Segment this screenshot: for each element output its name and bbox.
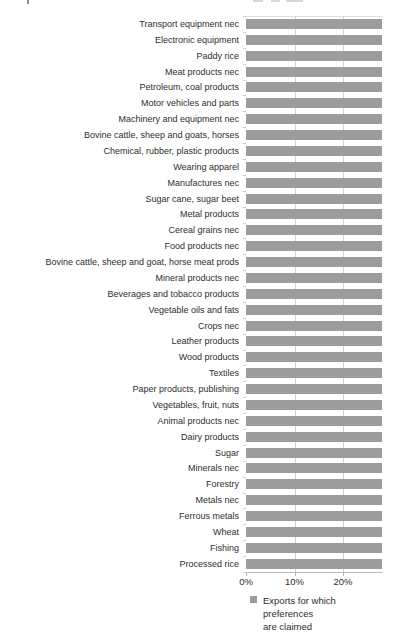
category-label: Machinery and equipment nec (0, 114, 246, 124)
bar (246, 241, 382, 251)
bar-row: Meat products nec (0, 64, 396, 80)
category-label: Dairy products (0, 432, 246, 442)
category-label: Electronic equipment (0, 35, 246, 45)
category-label: Ferrous metals (0, 511, 246, 521)
bar-row: Vegetables, fruit, nuts (0, 397, 396, 413)
bar (246, 479, 382, 489)
bar-row: Transport equipment nec (0, 16, 396, 32)
bar-row: Vegetable oils and fats (0, 302, 396, 318)
bar-rows: Transport equipment necElectronic equipm… (0, 16, 396, 572)
cropped-text-artifact (27, 0, 29, 4)
bar (246, 35, 382, 45)
bar-row: Textiles (0, 365, 396, 381)
category-label: Mineral products nec (0, 273, 246, 283)
bar-row: Ferrous metals (0, 508, 396, 524)
bar (246, 336, 382, 346)
category-label: Beverages and tobacco products (0, 289, 246, 299)
bar (246, 19, 382, 29)
bar-row: Crops nec (0, 318, 396, 334)
category-label: Textiles (0, 368, 246, 378)
category-label: Vegetable oils and fats (0, 305, 246, 315)
bar-row: Metal products (0, 207, 396, 223)
category-label: Leather products (0, 336, 246, 346)
bar (246, 146, 382, 156)
category-label: Metals nec (0, 495, 246, 505)
bar (246, 305, 382, 315)
bar-row: Animal products nec (0, 413, 396, 429)
category-label: Metal products (0, 209, 246, 219)
bar-row: Bovine cattle, sheep and goats, horses (0, 127, 396, 143)
bar-row: Processed rice (0, 556, 396, 572)
bar (246, 400, 382, 410)
category-label: Chemical, rubber, plastic products (0, 146, 246, 156)
x-tick-label: 10% (277, 576, 313, 587)
bar (246, 130, 382, 140)
category-label: Wheat (0, 527, 246, 537)
cropped-text-artifact (271, 0, 280, 2)
category-label: Minerals nec (0, 463, 246, 473)
bar (246, 527, 382, 537)
x-tick-label: 20% (325, 576, 361, 587)
bar-row: Manufactures nec (0, 175, 396, 191)
bar-row: Dairy products (0, 429, 396, 445)
bar-row: Fishing (0, 540, 396, 556)
bar (246, 559, 382, 569)
bar (246, 321, 382, 331)
bar-row: Mineral products nec (0, 270, 396, 286)
category-label: Wearing apparel (0, 162, 246, 172)
category-label: Crops nec (0, 321, 246, 331)
bar-chart-figure: Transport equipment necElectronic equipm… (0, 0, 396, 639)
category-label: Petroleum, coal products (0, 82, 246, 92)
bar (246, 162, 382, 172)
category-label: Paper products, publishing (0, 384, 246, 394)
category-label: Motor vehicles and parts (0, 98, 246, 108)
category-label: Forestry (0, 479, 246, 489)
x-axis-line (246, 572, 383, 573)
category-label: Manufactures nec (0, 178, 246, 188)
category-label: Sugar cane, sugar beet (0, 194, 246, 204)
bar (246, 51, 382, 61)
category-label: Cereal grains nec (0, 225, 246, 235)
bar (246, 114, 382, 124)
bar-row: Bovine cattle, sheep and goat, horse mea… (0, 254, 396, 270)
bar (246, 368, 382, 378)
category-label: Paddy rice (0, 51, 246, 61)
bar-row: Metals nec (0, 492, 396, 508)
legend-swatch (250, 596, 257, 603)
bar-row: Cereal grains nec (0, 222, 396, 238)
legend-label: Exports for which preferences are claime… (263, 594, 336, 633)
bar (246, 448, 382, 458)
bar-row: Machinery and equipment nec (0, 111, 396, 127)
bar (246, 384, 382, 394)
legend-label-line: Exports for which (263, 594, 336, 607)
bar-row: Forestry (0, 476, 396, 492)
bar-row: Wood products (0, 349, 396, 365)
bar-row: Petroleum, coal products (0, 80, 396, 96)
category-label: Sugar (0, 448, 246, 458)
bar-row: Beverages and tobacco products (0, 286, 396, 302)
x-tick-label: 0% (228, 576, 264, 587)
bar (246, 432, 382, 442)
bar-row: Wearing apparel (0, 159, 396, 175)
bar-row: Paddy rice (0, 48, 396, 64)
bar-row: Electronic equipment (0, 32, 396, 48)
cropped-text-artifact (253, 0, 263, 2)
bar-row: Leather products (0, 334, 396, 350)
category-label: Vegetables, fruit, nuts (0, 400, 246, 410)
category-label: Fishing (0, 543, 246, 553)
category-label: Transport equipment nec (0, 19, 246, 29)
bar (246, 194, 382, 204)
bar (246, 209, 382, 219)
bar (246, 543, 382, 553)
bar (246, 463, 382, 473)
bar (246, 178, 382, 188)
bar (246, 82, 382, 92)
bar-row: Wheat (0, 524, 396, 540)
bar-row: Motor vehicles and parts (0, 95, 396, 111)
bar (246, 273, 382, 283)
bar-row: Food products nec (0, 238, 396, 254)
bar (246, 67, 382, 77)
bar-row: Chemical, rubber, plastic products (0, 143, 396, 159)
bar (246, 289, 382, 299)
legend-label-line: preferences (263, 607, 336, 620)
